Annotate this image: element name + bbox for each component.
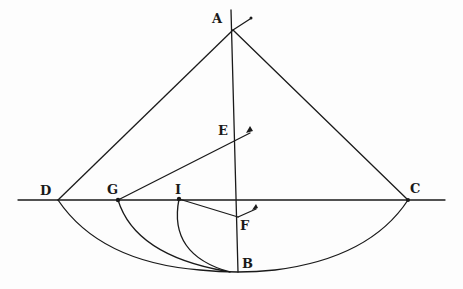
pointer-A-tip <box>250 17 253 20</box>
geometry-figure <box>0 0 463 289</box>
label-C: C <box>410 182 420 195</box>
line-GE <box>118 133 250 200</box>
label-B: B <box>242 257 253 270</box>
label-D: D <box>40 184 51 197</box>
label-E: E <box>218 124 228 137</box>
arc-GB <box>118 200 225 271</box>
label-F: F <box>240 219 249 232</box>
point-G-dot <box>116 198 120 202</box>
pointer-A <box>233 19 250 30</box>
arrowhead-E <box>246 126 253 133</box>
arc-DBC <box>58 200 408 272</box>
line-AC <box>233 30 408 200</box>
diagram-canvas: A E D G I C F B <box>0 0 463 289</box>
line-IF <box>179 199 238 217</box>
label-I: I <box>175 183 181 196</box>
pointer-F <box>238 209 256 217</box>
label-G: G <box>107 183 118 196</box>
label-A: A <box>212 12 222 25</box>
line-AD <box>58 30 233 200</box>
point-I-dot <box>177 197 181 201</box>
point-C-dot <box>406 198 410 202</box>
